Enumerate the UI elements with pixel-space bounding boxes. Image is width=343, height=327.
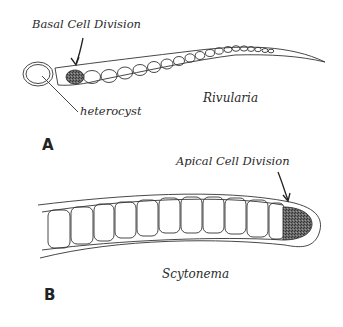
scytonema-filament <box>38 194 321 258</box>
basal-cell-division-label: Basal Cell Division <box>32 19 141 31</box>
scytonema-label: Scytonema <box>162 268 229 280</box>
rivularia-label: Rivularia <box>203 92 258 104</box>
heterocyst-label: heterocyst <box>80 106 142 118</box>
diagram: Basal Cell Division heterocyst Rivularia… <box>0 0 343 327</box>
panel-a-letter: A <box>42 138 54 153</box>
arrow-icon <box>278 172 290 201</box>
panel-b-letter: B <box>44 288 55 303</box>
basal-dividing-cell <box>66 70 84 84</box>
apical-cell-division-label: Apical Cell Division <box>176 156 290 168</box>
apical-dividing-cell <box>283 207 312 240</box>
arrow-icon <box>71 38 83 65</box>
